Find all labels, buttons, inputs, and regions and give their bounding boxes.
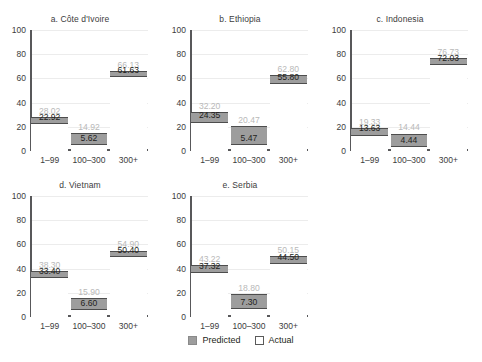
panel-1: a. Côte d'Ivoire02040608010028.0222.921–… — [0, 14, 160, 180]
bar-label-actual: 7.30 — [241, 298, 258, 307]
legend-item-actual: Actual — [255, 336, 294, 345]
y-axis-tick-label: 40 — [177, 98, 186, 107]
panel-title: a. Côte d'Ivoire — [0, 14, 160, 24]
y-axis-tick-label: 100 — [12, 192, 26, 201]
bar-actual — [430, 64, 467, 151]
y-axis-tick-label: 40 — [17, 264, 26, 273]
y-axis-tick-label: 0 — [21, 313, 26, 322]
x-axis-tick-label: 1–99 — [200, 156, 219, 165]
x-axis-tick-label: 300+ — [119, 322, 138, 331]
x-axis-tick-label: 300+ — [279, 322, 298, 331]
bar-group: 20.475.47 — [231, 30, 268, 151]
bar-label-actual: 5.62 — [81, 134, 98, 143]
bar-actual — [71, 309, 108, 317]
plot-area: 02040608010028.0222.921–9914.925.62100–3… — [30, 30, 148, 151]
y-axis-tick-label: 100 — [332, 26, 346, 35]
y-axis-tick-label: 80 — [17, 50, 26, 59]
y-axis-tick-label: 40 — [17, 98, 26, 107]
bar-group: 19.3313.63 — [351, 30, 388, 151]
y-axis-tick-label: 100 — [12, 26, 26, 35]
y-axis-tick-label: 80 — [337, 50, 346, 59]
bar-label-actual: 37.32 — [199, 262, 221, 271]
bar-label-actual: 44.50 — [278, 253, 300, 262]
bar-actual — [71, 144, 108, 151]
small-multiples-bar-chart: a. Côte d'Ivoire02040608010028.0222.921–… — [0, 0, 482, 362]
y-axis-tick-label: 60 — [177, 74, 186, 83]
bar-label-predicted: 32.20 — [199, 102, 221, 111]
y-axis-tick-label: 20 — [177, 123, 186, 132]
bar-group: 76.7372.03 — [430, 30, 467, 151]
x-axis-tick-label: 300+ — [119, 156, 138, 165]
bar-label-actual: 72.03 — [438, 54, 460, 63]
bar-group: 38.3033.40 — [31, 196, 68, 317]
y-axis-tick-label: 80 — [17, 216, 26, 225]
bar-group: 15.906.60 — [71, 196, 108, 317]
y-axis-tick-label: 60 — [17, 240, 26, 249]
y-axis-tick-label: 80 — [177, 50, 186, 59]
panel-title: b. Ethiopia — [160, 14, 320, 24]
x-axis-tick-label: 100–300 — [72, 322, 105, 331]
bar-label-actual: 4.44 — [401, 136, 418, 145]
legend-swatch-predicted — [188, 336, 197, 345]
bar-group: 54.9050.40 — [110, 196, 147, 317]
y-axis-tick-label: 20 — [177, 289, 186, 298]
y-axis-tick-label: 60 — [177, 240, 186, 249]
bar-label-actual: 6.60 — [81, 299, 98, 308]
bar-actual — [110, 256, 147, 317]
bar-actual — [231, 144, 268, 151]
bar-label-predicted: 14.44 — [398, 123, 420, 132]
y-axis-tick-label: 80 — [177, 216, 186, 225]
y-axis-tick-label: 60 — [337, 74, 346, 83]
plot-area: 02040608010019.3313.631–9914.444.44100–3… — [350, 30, 468, 151]
x-axis-tick-label: 100–300 — [232, 322, 265, 331]
x-axis-tick-label: 300+ — [279, 156, 298, 165]
chart-legend: PredictedActual — [0, 336, 482, 345]
panel-3: c. Indonesia02040608010019.3313.631–9914… — [320, 14, 480, 180]
bar-label-actual: 33.40 — [39, 267, 61, 276]
bar-group: 14.925.62 — [71, 30, 108, 151]
bar-group: 66.1361.63 — [110, 30, 147, 151]
x-axis-tick-label: 1–99 — [40, 156, 59, 165]
y-axis-tick-label: 0 — [341, 147, 346, 156]
bar-actual — [270, 83, 307, 151]
y-axis-tick-label: 0 — [21, 147, 26, 156]
bar-group: 28.0222.92 — [31, 30, 68, 151]
bar-actual — [270, 263, 307, 317]
y-axis-tick-label: 20 — [337, 123, 346, 132]
y-axis-tick-label: 60 — [17, 74, 26, 83]
panel-title: e. Serbia — [160, 180, 320, 190]
panel-5: e. Serbia02040608010043.2237.321–9918.80… — [160, 180, 320, 346]
y-axis-tick-label: 0 — [181, 147, 186, 156]
legend-label-actual: Actual — [269, 336, 294, 345]
y-axis-tick-label: 40 — [177, 264, 186, 273]
x-axis-tick-label: 1–99 — [360, 156, 379, 165]
x-axis-tick-label: 100–300 — [72, 156, 105, 165]
x-axis-tick-label: 1–99 — [40, 322, 59, 331]
y-axis-tick-label: 100 — [172, 26, 186, 35]
bar-label-actual: 24.35 — [199, 111, 221, 120]
panel-title: c. Indonesia — [320, 14, 480, 24]
bar-label-actual: 5.47 — [241, 134, 258, 143]
plot-area: 02040608010043.2237.321–9918.807.30100–3… — [190, 196, 308, 317]
y-axis-tick-label: 100 — [172, 192, 186, 201]
legend-swatch-actual — [255, 336, 264, 345]
bar-actual — [231, 308, 268, 317]
x-axis-tick-label: 1–99 — [200, 322, 219, 331]
bar-label-actual: 55.80 — [278, 73, 300, 82]
bar-label-actual: 22.92 — [39, 113, 61, 122]
bar-actual — [391, 146, 428, 151]
bar-label-actual: 61.63 — [118, 66, 140, 75]
bar-actual — [351, 135, 388, 151]
bar-label-actual: 13.63 — [359, 124, 381, 133]
bar-group: 32.2024.35 — [191, 30, 228, 151]
bar-actual — [191, 122, 228, 151]
y-axis-tick-label: 20 — [17, 123, 26, 132]
y-axis-tick-label: 20 — [17, 289, 26, 298]
plot-area: 02040608010038.3033.401–9915.906.60100–3… — [30, 196, 148, 317]
bar-label-actual: 50.40 — [118, 246, 140, 255]
x-axis-tick-label: 300+ — [439, 156, 458, 165]
bar-group: 43.2237.32 — [191, 196, 228, 317]
bar-actual — [110, 76, 147, 151]
bar-label-predicted: 18.80 — [238, 284, 260, 293]
bar-actual — [31, 123, 68, 151]
